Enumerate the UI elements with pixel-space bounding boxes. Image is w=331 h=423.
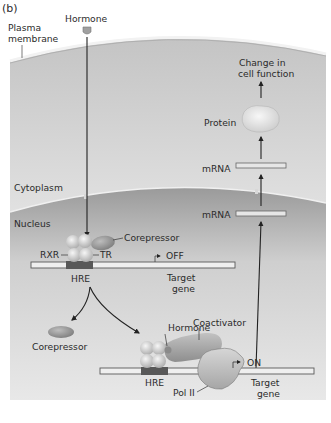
hormone-label: Hormone (65, 13, 108, 24)
mrna-nucleus-strand (236, 211, 286, 216)
change-label-line1: Change in (239, 57, 286, 68)
tr-receptor-top (78, 234, 92, 248)
hre-label-on: HRE (145, 377, 164, 388)
plasma-membrane-label-line2: membrane (8, 33, 59, 44)
hormone-molecule-icon (83, 27, 91, 34)
hormone-bound-icon (165, 347, 172, 354)
tr-receptor (79, 248, 93, 262)
hre-site-on (141, 367, 168, 375)
nucleus-label: Nucleus (14, 218, 51, 229)
target-gene-label-off-line2: gene (172, 283, 195, 294)
mrna-nucleus-label: mRNA (202, 209, 231, 220)
corepressor-bound-label: Corepressor (124, 232, 180, 243)
nuclear-receptor-diagram: (b) Hormone Plasma membrane Cytoplasm Nu… (0, 0, 331, 423)
hre-label-off: HRE (71, 273, 90, 284)
rxr-receptor-active-top (140, 341, 154, 355)
target-gene-label-off-line1: Target (166, 272, 196, 283)
protein-label: Protein (204, 117, 236, 128)
target-gene-label-on-line1: Target (250, 377, 280, 388)
off-label: OFF (166, 250, 184, 261)
change-label-line2: cell function (238, 68, 294, 79)
mrna-cytoplasm-label: mRNA (202, 163, 231, 174)
on-label: ON (247, 357, 261, 368)
rxr-receptor-top (66, 235, 80, 249)
rxr-receptor-active (140, 354, 154, 368)
nuclear-pore (255, 189, 258, 194)
tr-receptor-active-top (152, 341, 166, 355)
target-gene-label-on-line2: gene (257, 388, 280, 399)
coactivator-label: Coactivator (193, 317, 246, 328)
hre-site-off (66, 261, 93, 269)
tr-label: TR (99, 249, 113, 260)
rxr-label: RXR (40, 249, 60, 260)
cytoplasm-label: Cytoplasm (14, 182, 63, 193)
dna-strand-off (31, 262, 235, 268)
mrna-cytoplasm-strand (236, 163, 286, 168)
corepressor-free-label: Corepressor (32, 341, 88, 352)
protein-blob (242, 106, 279, 133)
plasma-membrane-label-line1: Plasma (8, 22, 41, 33)
corepressor-free (48, 326, 74, 338)
rxr-receptor (67, 248, 81, 262)
panel-label: (b) (2, 2, 18, 15)
tr-receptor-active (152, 354, 166, 368)
pol2-label: Pol II (173, 387, 195, 398)
